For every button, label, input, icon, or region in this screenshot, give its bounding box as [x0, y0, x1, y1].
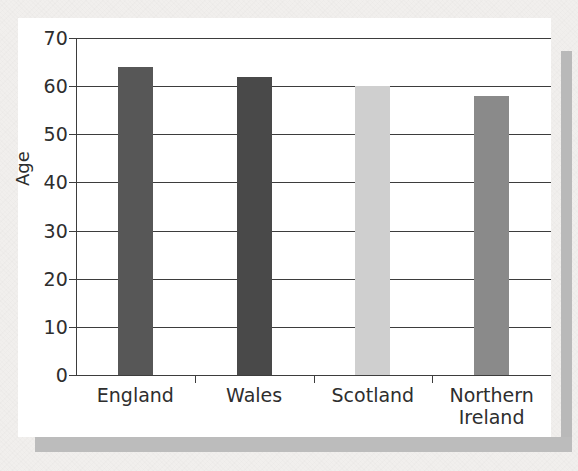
y-axis-tick-label: 60 — [43, 77, 68, 96]
x-axis-tick-label: Wales — [195, 384, 314, 406]
x-axis-tick-labels: EnglandWalesScotlandNorthern Ireland — [76, 384, 551, 436]
bar — [355, 86, 390, 375]
x-axis-tick-label: Scotland — [314, 384, 433, 406]
y-axis-tick — [69, 375, 76, 376]
plot-area — [76, 38, 551, 375]
x-axis-tick — [195, 375, 196, 383]
y-axis-spine — [76, 38, 77, 375]
x-axis-tick-label: England — [76, 384, 195, 406]
x-axis-tick-label: Northern Ireland — [432, 384, 551, 429]
y-axis-tick — [69, 38, 76, 39]
y-axis-tick-label: 50 — [43, 125, 68, 144]
y-axis-tick-label: 10 — [43, 318, 68, 337]
y-axis-tick-label: 0 — [56, 366, 68, 385]
x-axis-tick — [314, 375, 315, 383]
y-axis-tick-labels: 010203040506070 — [18, 38, 68, 375]
card-shadow-right — [561, 51, 572, 451]
y-axis-tick — [69, 279, 76, 280]
bar — [474, 96, 509, 375]
chart-figure-card: Age 010203040506070 EnglandWalesScotland… — [18, 18, 551, 437]
y-axis-tick — [69, 182, 76, 183]
gridline — [76, 38, 551, 39]
y-axis-tick — [69, 231, 76, 232]
x-axis-tick — [432, 375, 433, 383]
card-shadow-bottom — [35, 437, 572, 452]
y-axis-tick-label: 40 — [43, 173, 68, 192]
y-axis-tick-label: 70 — [43, 29, 68, 48]
y-axis-tick — [69, 134, 76, 135]
y-axis-tick — [69, 327, 76, 328]
y-axis-tick — [69, 86, 76, 87]
y-axis-tick-label: 20 — [43, 270, 68, 289]
bar — [237, 77, 272, 375]
bar — [118, 67, 153, 375]
y-axis-tick-label: 30 — [43, 222, 68, 241]
